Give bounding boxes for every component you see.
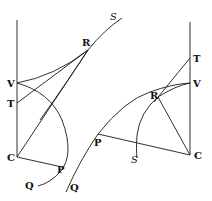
- right-arc-RS: [137, 97, 159, 158]
- label-left-R: R: [82, 37, 91, 48]
- left-line-CR: [17, 50, 88, 157]
- label-left-T: T: [7, 98, 15, 109]
- right-line-PC: [98, 134, 190, 155]
- right-tangent-TR: [154, 58, 190, 102]
- label-right-R: R: [150, 90, 159, 101]
- label-right-Q: Q: [70, 182, 79, 193]
- label-right-C: C: [194, 150, 202, 161]
- label-left-Q: Q: [25, 180, 34, 191]
- label-right-T: T: [193, 53, 201, 64]
- left-tangent-TR: [17, 50, 88, 103]
- label-right-S: S: [131, 154, 138, 165]
- label-right-P: P: [94, 137, 102, 148]
- label-right-V: V: [192, 78, 201, 89]
- right-curve-QPV: [66, 83, 190, 192]
- geometry-diagram: V T C P Q R S T V R P S C Q: [0, 0, 212, 201]
- label-left-C: C: [7, 152, 15, 163]
- label-left-S: S: [110, 11, 117, 22]
- right-line-RC: [158, 97, 190, 155]
- label-left-V: V: [6, 78, 15, 89]
- left-line-CP: [17, 157, 62, 167]
- label-left-P: P: [57, 164, 65, 175]
